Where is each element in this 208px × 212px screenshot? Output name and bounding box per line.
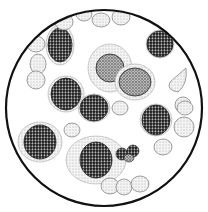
white-cell-nucleus [142, 105, 170, 135]
red-blood-cell [116, 179, 132, 195]
white-cell-nucleus [80, 142, 112, 178]
white-cell-nucleus [80, 95, 108, 121]
platelet-cluster [124, 154, 134, 162]
red-blood-cell [131, 176, 149, 192]
blood-smear-illustration [0, 0, 208, 212]
red-blood-cell [27, 71, 45, 89]
white-cell-nucleus [48, 28, 72, 62]
white-cell-nucleus [51, 78, 81, 110]
white-cell-nucleus [24, 125, 56, 159]
white-cell-nucleus [119, 68, 151, 96]
red-blood-cell [177, 101, 193, 115]
red-blood-cell [174, 117, 194, 137]
red-blood-cell [92, 13, 110, 27]
cell-layer [18, 7, 194, 195]
red-blood-cell [112, 101, 128, 115]
red-blood-cell [154, 139, 172, 155]
red-blood-cell [64, 123, 80, 137]
teardrop-cell [169, 68, 186, 92]
